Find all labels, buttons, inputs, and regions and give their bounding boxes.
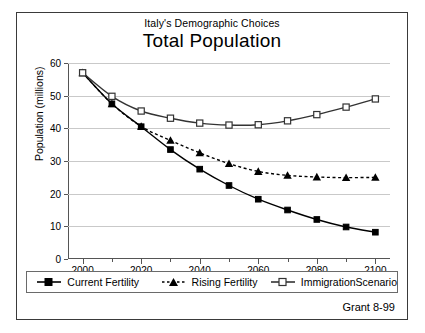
data-point xyxy=(255,196,261,202)
chart-subtitle: Italy's Demographic Choices xyxy=(17,17,407,30)
data-point xyxy=(313,173,321,181)
data-point xyxy=(225,159,233,167)
series-current-fertility xyxy=(80,70,378,235)
chart-titles: Italy's Demographic Choices Total Popula… xyxy=(17,17,407,52)
x-tick-mark xyxy=(141,259,142,264)
data-point xyxy=(168,147,174,153)
data-point xyxy=(166,136,174,144)
data-point xyxy=(373,229,379,235)
x-tick-mark-minor xyxy=(170,259,171,262)
data-point xyxy=(226,183,232,189)
data-point xyxy=(314,217,320,223)
plot-area: 0102030405060 200020202040206020802100 xyxy=(68,63,390,259)
series-line xyxy=(83,73,376,125)
x-tick-mark xyxy=(375,259,376,264)
chart-legend: Current Fertility Rising Fertility Immig… xyxy=(26,271,398,293)
legend-item-current-fertility[interactable]: Current Fertility xyxy=(27,276,148,288)
data-point xyxy=(342,173,350,181)
y-tick-label: 10 xyxy=(50,221,61,232)
y-tick-label: 20 xyxy=(50,188,61,199)
legend-swatch-current-fertility xyxy=(36,276,62,288)
credit-text: Grant 8-99 xyxy=(342,301,395,313)
legend-label-immigration-scenario: ImmigrationScenario xyxy=(301,277,397,288)
x-tick-mark-minor xyxy=(112,259,113,262)
y-tick-label: 40 xyxy=(50,123,61,134)
legend-label-current-fertility: Current Fertility xyxy=(67,277,139,288)
y-tick-label: 30 xyxy=(50,156,61,167)
data-point xyxy=(197,120,203,126)
x-tick-mark-minor xyxy=(288,259,289,262)
x-tick-mark xyxy=(83,259,84,264)
chart-title: Total Population xyxy=(17,30,407,52)
y-tick-label: 0 xyxy=(55,254,61,265)
data-point xyxy=(343,224,349,230)
data-point xyxy=(343,104,349,110)
y-tick-label: 60 xyxy=(50,58,61,69)
data-point xyxy=(284,118,290,124)
data-point xyxy=(109,93,115,99)
series-immigrationscenario xyxy=(80,70,379,128)
legend-swatch-rising-fertility xyxy=(161,276,187,288)
x-tick-mark-minor xyxy=(346,259,347,262)
legend-item-immigration-scenario[interactable]: ImmigrationScenario xyxy=(270,276,397,288)
series-line xyxy=(83,73,376,232)
y-tick-mark xyxy=(64,259,68,260)
y-tick-label: 50 xyxy=(50,90,61,101)
data-point xyxy=(285,207,291,213)
data-point xyxy=(255,122,261,128)
data-point xyxy=(197,166,203,172)
data-point xyxy=(167,115,173,121)
chart-figure: Italy's Demographic Choices Total Popula… xyxy=(16,12,408,320)
x-tick-mark xyxy=(200,259,201,264)
legend-item-rising-fertility[interactable]: Rising Fertility xyxy=(148,276,269,288)
x-tick-mark xyxy=(317,259,318,264)
data-point xyxy=(138,108,144,114)
x-tick-mark-minor xyxy=(229,259,230,262)
data-point xyxy=(314,112,320,118)
legend-label-rising-fertility: Rising Fertility xyxy=(192,277,258,288)
series-layer xyxy=(68,63,390,259)
x-tick-mark xyxy=(258,259,259,264)
y-axis-label: Population (millions) xyxy=(33,66,45,161)
legend-swatch-immigration-scenario xyxy=(270,276,296,288)
data-point xyxy=(226,122,232,128)
data-point xyxy=(196,149,204,157)
data-point xyxy=(80,70,86,76)
data-point xyxy=(372,96,378,102)
